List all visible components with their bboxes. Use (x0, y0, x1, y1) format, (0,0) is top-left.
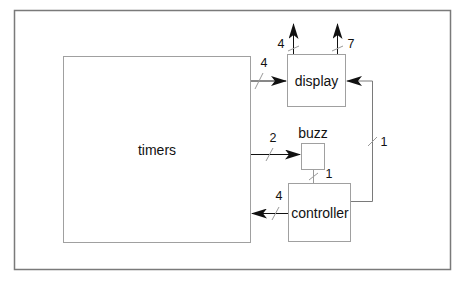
bus-width-label: 1 (326, 167, 333, 181)
timers-block[interactable]: timers (64, 57, 251, 243)
timers-label: timers (138, 142, 176, 158)
controller-to-display: 1 (347, 81, 388, 202)
buzz-label: buzz (298, 125, 328, 141)
controller-block[interactable]: controller (289, 184, 351, 242)
display-label: display (295, 73, 339, 89)
controller-to-timers: 4 (252, 189, 288, 220)
block-diagram: timers display buzz controller 4 7 4 2 (0, 0, 464, 281)
timers-to-buzz: 2 (251, 131, 300, 161)
bus-width-label: 2 (270, 131, 277, 145)
display-output-right: 7 (332, 24, 355, 54)
timers-to-display: 4 (251, 56, 286, 89)
display-block[interactable]: display (288, 55, 346, 107)
bus-width-label: 4 (276, 189, 283, 203)
controller-label: controller (291, 205, 349, 221)
bus-width-label: 1 (381, 135, 388, 149)
bus-width-label: 4 (261, 56, 268, 70)
bus-width-label: 4 (278, 37, 285, 51)
buzz-block[interactable]: buzz (298, 125, 328, 170)
bus-width-label: 7 (348, 37, 355, 51)
display-output-left: 4 (278, 24, 299, 54)
